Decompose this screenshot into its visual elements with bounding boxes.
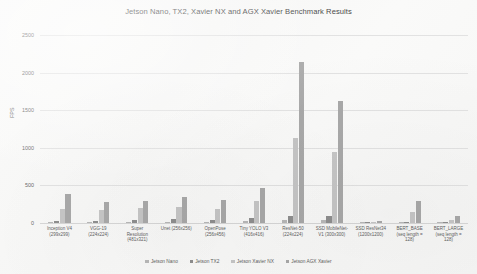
bar[interactable] <box>65 194 70 223</box>
legend-item[interactable]: Jetson TX2 <box>190 259 220 264</box>
legend-swatch <box>145 260 148 263</box>
bar[interactable] <box>243 221 248 223</box>
bar[interactable] <box>176 207 181 223</box>
bar[interactable] <box>449 220 454 223</box>
legend-label: Jetson Xavier NX <box>237 259 274 264</box>
bar[interactable] <box>455 216 460 223</box>
bar[interactable] <box>321 220 326 223</box>
bar[interactable] <box>404 222 409 223</box>
y-axis-tick-label: 2000 <box>0 70 34 76</box>
bar[interactable] <box>371 222 376 224</box>
legend-swatch <box>190 260 193 263</box>
bar[interactable] <box>138 208 143 223</box>
y-axis-tick-label: 1500 <box>0 107 34 113</box>
bar-group <box>429 35 468 223</box>
bar[interactable] <box>221 200 226 223</box>
bar[interactable] <box>99 210 104 223</box>
bar[interactable] <box>204 222 209 223</box>
legend-item[interactable]: Jetson Nano <box>145 259 177 264</box>
bar[interactable] <box>360 222 365 223</box>
bar-group <box>235 35 274 223</box>
bar-group <box>79 35 118 223</box>
bar[interactable] <box>260 188 265 223</box>
bar[interactable] <box>165 222 170 223</box>
bar[interactable] <box>365 222 370 223</box>
bar[interactable] <box>215 209 220 223</box>
y-axis-tick-label: 1000 <box>0 145 34 151</box>
x-axis-category-label: BERT_LARGE (seq length = 128) <box>426 226 471 243</box>
bar[interactable] <box>126 222 131 223</box>
legend-label: Jetson AGX Xavier <box>291 259 331 264</box>
legend-label: Jetson TX2 <box>195 259 219 264</box>
bar-group <box>390 35 429 223</box>
chart-title: Jetson Nano, TX2, Xavier NX and AGX Xavi… <box>0 7 477 16</box>
bar[interactable] <box>182 197 187 223</box>
bar[interactable] <box>293 138 298 223</box>
bar-group <box>351 35 390 223</box>
bar[interactable] <box>60 209 65 223</box>
y-axis-tick-label: 500 <box>0 182 34 188</box>
bar[interactable] <box>332 152 337 223</box>
bar[interactable] <box>143 201 148 223</box>
bar[interactable] <box>54 221 59 223</box>
bar[interactable] <box>104 202 109 223</box>
bar[interactable] <box>410 212 415 223</box>
bar[interactable] <box>282 220 287 223</box>
y-axis-tick-label: 0 <box>0 220 34 226</box>
bar[interactable] <box>443 222 448 223</box>
x-axis-line <box>40 223 468 224</box>
bar-group <box>118 35 157 223</box>
bar[interactable] <box>288 216 293 223</box>
bar[interactable] <box>48 222 53 223</box>
bar-group <box>196 35 235 223</box>
bar[interactable] <box>299 62 304 223</box>
bar-group <box>312 35 351 223</box>
bar[interactable] <box>171 219 176 223</box>
bar[interactable] <box>338 101 343 223</box>
bar[interactable] <box>210 220 215 223</box>
bar-group <box>273 35 312 223</box>
bar-group <box>157 35 196 223</box>
bar[interactable] <box>326 216 331 223</box>
bar[interactable] <box>437 222 442 223</box>
legend-item[interactable]: Jetson AGX Xavier <box>286 259 332 264</box>
chart-container: Jetson Nano, TX2, Xavier NX and AGX Xavi… <box>0 0 477 274</box>
legend-label: Jetson Nano <box>151 259 178 264</box>
bar[interactable] <box>249 218 254 223</box>
legend-swatch <box>231 260 234 263</box>
bar[interactable] <box>377 221 382 223</box>
legend-item[interactable]: Jetson Xavier NX <box>231 259 273 264</box>
legend-swatch <box>286 260 289 263</box>
bar-group <box>40 35 79 223</box>
bar[interactable] <box>416 201 421 223</box>
bar[interactable] <box>254 201 259 223</box>
y-axis-tick-label: 2500 <box>0 32 34 38</box>
bar[interactable] <box>87 222 92 223</box>
bar[interactable] <box>93 221 98 223</box>
bar[interactable] <box>132 220 137 223</box>
bar[interactable] <box>399 222 404 223</box>
chart-legend: Jetson NanoJetson TX2Jetson Xavier NXJet… <box>0 259 477 264</box>
